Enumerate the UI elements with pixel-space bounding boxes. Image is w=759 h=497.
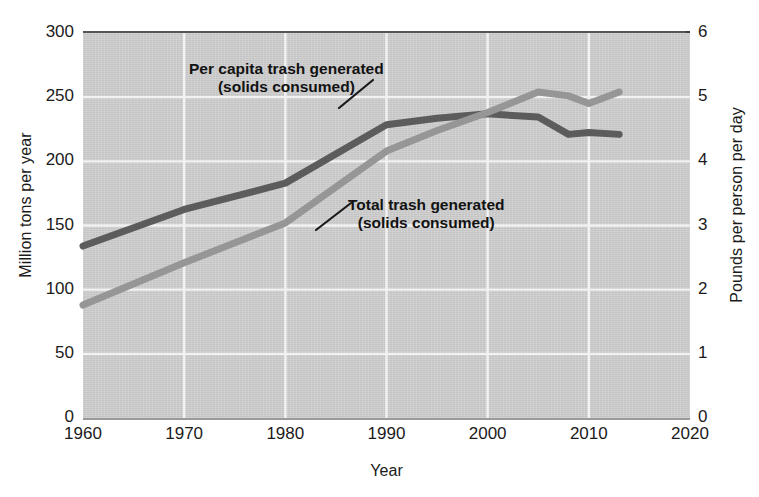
- annotation-total-line2: (solids consumed): [348, 214, 504, 232]
- x-tick-1960: 1960: [43, 424, 123, 444]
- x-tick-1980: 1980: [245, 424, 325, 444]
- y-axis-right-title: Pounds per person per day: [728, 95, 746, 315]
- x-tick-2020: 2020: [650, 424, 730, 444]
- annotation-per-capita-line2: (solids consumed): [189, 78, 384, 96]
- annotation-per-capita-line1: Per capita trash generated: [189, 60, 384, 78]
- x-tick-2000: 2000: [448, 424, 528, 444]
- x-tick-1990: 1990: [347, 424, 427, 444]
- annotation-total-line1: Total trash generated: [348, 196, 504, 214]
- x-tick-2010: 2010: [549, 424, 629, 444]
- chart-figure: 300250200150100500 6543210 1960197019801…: [0, 0, 759, 497]
- y-axis-left-title: Million tons per year: [17, 95, 35, 315]
- x-tick-1970: 1970: [144, 424, 224, 444]
- annotation-total: Total trash generated (solids consumed): [348, 196, 504, 233]
- annotation-per-capita: Per capita trash generated (solids consu…: [189, 60, 384, 97]
- x-axis-title: Year: [83, 462, 690, 480]
